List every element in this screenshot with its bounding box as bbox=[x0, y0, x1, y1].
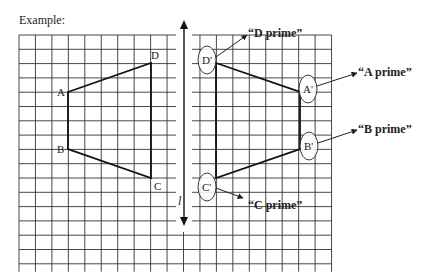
line-of-reflection: l bbox=[176, 14, 192, 232]
callout-arrow-icon bbox=[216, 35, 247, 57]
caption: Example: bbox=[19, 13, 65, 27]
diagram-canvas: Example: l ABCDD'“D prime”A'“A prime”B'“… bbox=[0, 0, 421, 276]
callout-b-prime: “B prime” bbox=[358, 122, 412, 136]
vertex-label-a-prime: A' bbox=[303, 83, 313, 95]
vertex-label-b: B bbox=[57, 143, 64, 155]
callout-a-prime: “A prime” bbox=[358, 65, 412, 79]
vertex-label-c: C bbox=[154, 180, 161, 192]
vertex-label-d: D bbox=[151, 49, 159, 61]
callout-arrow-icon bbox=[216, 188, 243, 198]
vertex-label-c-prime: C' bbox=[202, 181, 211, 193]
vertex-label-b-prime: B' bbox=[304, 140, 313, 152]
callout-c-prime: “C prime” bbox=[248, 198, 302, 212]
callout-arrow-icon bbox=[317, 73, 357, 86]
vertex-label-a: A bbox=[57, 86, 65, 98]
callout-d-prime: “D prime” bbox=[248, 26, 302, 40]
vertex-label-d-prime: D' bbox=[202, 54, 212, 66]
labels: ABCDD'“D prime”A'“A prime”B'“B prime”C'“… bbox=[57, 26, 412, 212]
callout-arrow-icon bbox=[318, 130, 357, 143]
